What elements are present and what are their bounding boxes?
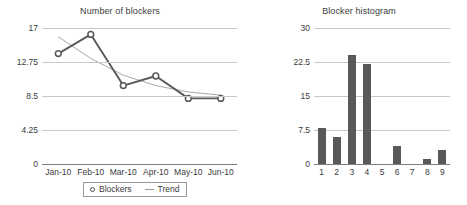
y-axis-tick-label: 22.5	[293, 57, 310, 67]
gridline	[314, 164, 450, 165]
x-axis-tick-label: 3	[349, 167, 354, 177]
line-chart-title: Number of blockers	[10, 6, 230, 16]
y-axis-tick-label: 15	[301, 91, 310, 101]
x-axis-tick-label: 9	[440, 167, 445, 177]
line-chart-plot-area: 04.258.512.7517Jan-10Feb-10Mar-10Apr-10M…	[42, 28, 237, 164]
y-axis-tick-label: 8.5	[26, 91, 38, 101]
x-axis-tick-label: Feb-10	[77, 167, 104, 177]
line-chart-panel: Number of blockers 04.258.512.7517Jan-10…	[0, 0, 250, 205]
data-point-marker[interactable]	[120, 83, 126, 89]
y-axis-tick-label: 0	[33, 159, 38, 169]
y-axis-tick-label: 4.25	[21, 125, 38, 135]
x-axis-tick-label: 5	[380, 167, 385, 177]
charts-page: Number of blockers 04.258.512.7517Jan-10…	[0, 0, 467, 205]
y-axis-tick-label: 30	[301, 23, 310, 33]
x-axis-tick-label: 4	[365, 167, 370, 177]
gridline	[314, 96, 450, 97]
histogram-bar[interactable]	[318, 128, 326, 164]
x-axis-tick-label: 8	[425, 167, 430, 177]
histogram-panel: Blocker histogram 07.51522.530123456789	[250, 0, 467, 205]
histogram-bar[interactable]	[438, 150, 446, 164]
histogram-bar[interactable]	[348, 55, 356, 164]
legend-label-trend: Trend	[158, 185, 180, 194]
gridline	[42, 96, 237, 97]
data-point-marker[interactable]	[55, 51, 61, 57]
legend-entry-trend[interactable]: Trend	[145, 185, 180, 194]
gridline	[42, 130, 237, 131]
trend-line	[58, 37, 221, 95]
gridline	[42, 28, 237, 29]
data-point-marker[interactable]	[153, 73, 159, 79]
y-axis-tick-label: 7.5	[298, 125, 310, 135]
histogram-bar[interactable]	[393, 146, 401, 164]
x-axis-tick-label: 7	[410, 167, 415, 177]
x-axis-tick-label: Jan-10	[45, 167, 71, 177]
y-axis-tick-label: 17	[29, 23, 38, 33]
gridline	[314, 28, 450, 29]
gridline	[42, 62, 237, 63]
gridline	[314, 130, 450, 131]
legend-entry-blockers[interactable]: Blockers	[90, 185, 132, 194]
legend-label-blockers: Blockers	[99, 185, 132, 194]
x-axis-tick-label: 6	[395, 167, 400, 177]
blockers-line	[58, 34, 221, 98]
x-axis-tick-label: Apr-10	[143, 167, 169, 177]
x-axis-tick-label: Jun-10	[208, 167, 234, 177]
histogram-bar[interactable]	[363, 64, 371, 164]
x-axis-tick-label: May-10	[174, 167, 202, 177]
histogram-bar[interactable]	[333, 137, 341, 164]
data-point-marker[interactable]	[88, 32, 94, 38]
x-axis-tick-label: 2	[334, 167, 339, 177]
x-axis-tick-label: 1	[319, 167, 324, 177]
histogram-bar[interactable]	[423, 159, 431, 164]
circle-marker-icon	[90, 187, 95, 192]
gridline	[42, 164, 237, 165]
histogram-title: Blocker histogram	[264, 6, 454, 16]
line-chart-legend: Blockers Trend	[83, 182, 187, 197]
gridline	[314, 62, 450, 63]
y-axis-tick-label: 0	[305, 159, 310, 169]
line-marker-icon	[145, 189, 154, 190]
y-axis-tick-label: 12.75	[17, 57, 38, 67]
histogram-plot-area: 07.51522.530123456789	[314, 28, 450, 164]
x-axis-tick-label: Mar-10	[110, 167, 137, 177]
